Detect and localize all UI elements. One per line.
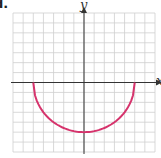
x-axis-label: x [156,73,161,88]
coordinate-plane [0,0,161,158]
y-axis-label: y [80,0,87,12]
